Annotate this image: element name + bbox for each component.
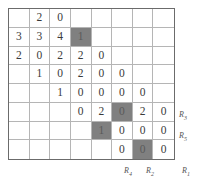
- matrix-cell: 3: [9, 28, 30, 47]
- matrix-cell: 0: [112, 65, 133, 84]
- matrix-cell: 0: [112, 84, 133, 103]
- matrix-cell: 0: [50, 9, 71, 28]
- row-label-r3-sub: 3: [184, 115, 187, 121]
- matrix-cell: 2: [50, 47, 71, 66]
- matrix-cell: [9, 65, 30, 84]
- matrix-cell: 0: [153, 103, 174, 122]
- matrix-cell: 2: [92, 103, 113, 122]
- matrix-cell: 0: [50, 65, 71, 84]
- row-label-r1: R1: [182, 166, 190, 177]
- matrix-cell: [50, 140, 71, 159]
- row-label-r5: R5: [179, 131, 187, 142]
- row-label-r5-sub: 5: [184, 136, 187, 142]
- column-label-r4: R4: [124, 166, 132, 177]
- matrix-cell: [71, 140, 92, 159]
- matrix-cell: [133, 9, 154, 28]
- matrix-cell: [153, 28, 174, 47]
- matrix-cell: 0: [92, 65, 113, 84]
- matrix-cell: 0: [153, 122, 174, 141]
- matrix-cell: [30, 140, 51, 159]
- matrix-cell: 0: [112, 122, 133, 141]
- matrix-cell: [92, 9, 113, 28]
- matrix-cell: 1: [92, 122, 113, 141]
- matrix-cell: [30, 103, 51, 122]
- matrix-cell: [9, 9, 30, 28]
- matrix-cell: 1: [71, 28, 92, 47]
- matrix-cell: [30, 122, 51, 141]
- matrix-cell: 0: [133, 84, 154, 103]
- matrix-grid: 203341202201020010000020201000000: [8, 8, 175, 160]
- matrix-cell: [92, 28, 113, 47]
- row-label-r1-sub: 1: [187, 171, 190, 177]
- matrix-cell: [133, 47, 154, 66]
- matrix-cell: [9, 122, 30, 141]
- matrix-cell: [112, 28, 133, 47]
- matrix-cell: [9, 140, 30, 159]
- column-label-r4-sub: 4: [129, 171, 132, 177]
- matrix-cell: [71, 9, 92, 28]
- matrix-cell: 0: [92, 84, 113, 103]
- matrix-cell: 2: [9, 47, 30, 66]
- matrix-cell: 0: [112, 103, 133, 122]
- matrix-cell: 2: [71, 65, 92, 84]
- matrix-cell: [112, 9, 133, 28]
- matrix-cell: 0: [30, 47, 51, 66]
- matrix-cell: [9, 84, 30, 103]
- matrix-cell: [133, 65, 154, 84]
- matrix-cell: [71, 122, 92, 141]
- matrix-cell: 2: [71, 47, 92, 66]
- matrix-cell: [112, 47, 133, 66]
- matrix-cell: 2: [30, 9, 51, 28]
- matrix-cell: 0: [133, 122, 154, 141]
- matrix-cell: [133, 28, 154, 47]
- column-label-r2: R2: [146, 166, 154, 177]
- matrix-cell: 0: [112, 140, 133, 159]
- matrix-cell: [50, 103, 71, 122]
- matrix-cell: 0: [71, 103, 92, 122]
- matrix-cell: 1: [50, 84, 71, 103]
- matrix-cell: 3: [30, 28, 51, 47]
- matrix-cell: [153, 65, 174, 84]
- matrix-cell: 0: [133, 140, 154, 159]
- matrix-cell: [9, 103, 30, 122]
- column-label-r2-sub: 2: [151, 171, 154, 177]
- matrix-cell: 0: [71, 84, 92, 103]
- matrix-cell: 0: [153, 140, 174, 159]
- matrix-cell: [153, 84, 174, 103]
- matrix-cell: [153, 47, 174, 66]
- matrix-figure: 203341202201020010000020201000000 R3 R5 …: [0, 0, 201, 185]
- matrix-cell: 0: [92, 47, 113, 66]
- matrix-cell: [50, 122, 71, 141]
- matrix-cell: [153, 9, 174, 28]
- matrix-cell: [92, 140, 113, 159]
- matrix-cell: [30, 84, 51, 103]
- matrix-cell: 2: [133, 103, 154, 122]
- matrix-cell: 4: [50, 28, 71, 47]
- matrix-cell: 1: [30, 65, 51, 84]
- row-label-r3: R3: [179, 110, 187, 121]
